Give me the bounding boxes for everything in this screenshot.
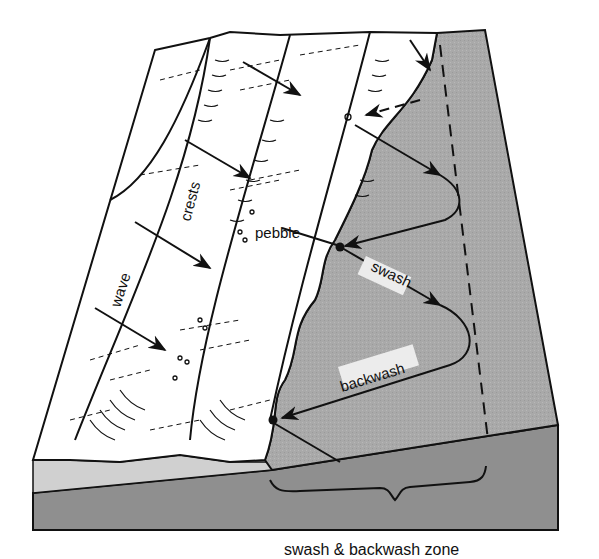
pebble-marker-1 [336,243,345,252]
pebble-marker-2 [269,416,278,425]
swash-backwash-diagram: wave crests pebble swash backwash swash … [0,0,599,559]
caption-swash-backwash-zone: swash & backwash zone [284,541,459,558]
label-pebble: pebble [255,224,300,241]
